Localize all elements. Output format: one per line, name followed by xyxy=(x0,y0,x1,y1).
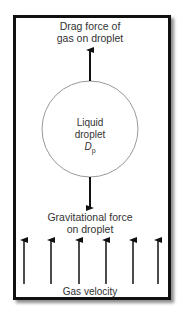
gravity-force-label: Gravitational force on droplet xyxy=(20,211,160,235)
diameter-symbol: Dp xyxy=(50,141,130,157)
gravity-label-line2: on droplet xyxy=(20,223,160,235)
gas-velocity-label: Gas velocity xyxy=(30,286,150,298)
droplet-label: Liquid droplet Dp xyxy=(50,117,130,157)
gravity-label-line1: Gravitational force xyxy=(20,211,160,223)
drag-label-line1: Drag force of xyxy=(30,20,150,32)
droplet-label-line2: droplet xyxy=(50,129,130,141)
drag-force-label: Drag force of gas on droplet xyxy=(30,20,150,44)
gas-velocity-arrows xyxy=(24,240,158,284)
drag-label-line2: gas on droplet xyxy=(30,32,150,44)
diagram-graphics xyxy=(0,0,182,323)
droplet-label-line1: Liquid xyxy=(50,117,130,129)
